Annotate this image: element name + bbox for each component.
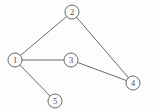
graph-node-label: 2 xyxy=(70,7,74,17)
graph-node[interactable]: 5 xyxy=(48,94,62,108)
graph-edge xyxy=(77,17,129,77)
graph-diagram: 12345 xyxy=(0,0,153,112)
graph-svg-canvas: 12345 xyxy=(0,0,153,112)
graph-edge xyxy=(78,62,127,80)
graph-edge xyxy=(20,17,66,56)
graph-edge xyxy=(20,65,50,96)
graph-node-label: 3 xyxy=(69,55,73,65)
graph-node[interactable]: 1 xyxy=(8,53,22,67)
graph-node[interactable]: 4 xyxy=(126,76,140,90)
node-layer: 12345 xyxy=(8,5,140,108)
graph-node[interactable]: 3 xyxy=(64,53,78,67)
graph-node-label: 5 xyxy=(53,96,57,106)
graph-node[interactable]: 2 xyxy=(65,5,79,19)
graph-node-label: 1 xyxy=(13,55,17,65)
